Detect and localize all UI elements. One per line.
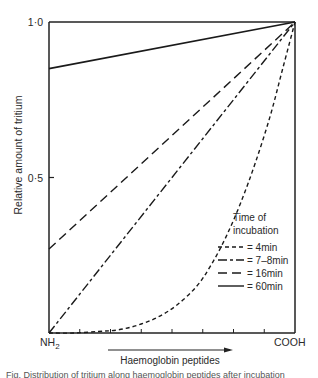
series-line-60min bbox=[49, 22, 295, 69]
y-axis-label: Relative amount of tritium bbox=[12, 95, 24, 214]
figure-caption-fragment: Fig. Distribution of tritium along haemo… bbox=[6, 370, 316, 378]
x-direction-arrow bbox=[108, 348, 233, 353]
y-tick-label: 0·5 bbox=[28, 172, 43, 184]
x-start-label: NH2 bbox=[40, 336, 60, 351]
legend-label-7-8min: = 7–8min bbox=[247, 255, 288, 266]
y-axis-ticks: 0·51·0 bbox=[28, 16, 54, 184]
line-chart: 0·51·0 Relative amount of tritium NH2 CO… bbox=[0, 0, 318, 378]
x-axis-label: Haemoglobin peptides bbox=[120, 355, 220, 366]
legend-title-line2: incubation bbox=[233, 225, 279, 236]
legend-label-16min: = 16min bbox=[247, 268, 283, 279]
x-end-label: COOH bbox=[274, 336, 306, 348]
legend-title-line1: Time of bbox=[233, 212, 266, 223]
y-tick-label: 1·0 bbox=[28, 16, 43, 28]
legend-items: = 4min= 7–8min= 16min= 60min bbox=[218, 242, 288, 292]
legend-label-4min: = 4min bbox=[247, 242, 277, 253]
legend-label-60min: = 60min bbox=[247, 281, 283, 292]
legend: Time of incubation = 4min= 7–8min= 16min… bbox=[218, 212, 288, 292]
